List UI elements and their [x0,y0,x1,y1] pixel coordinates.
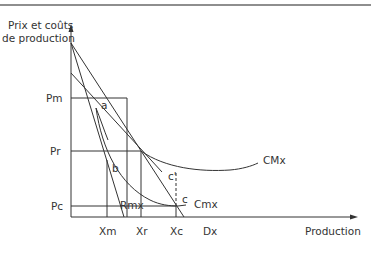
average-cost-label: CMx [263,155,286,166]
marginal-revenue-label: Rmx [120,200,144,211]
price-label-pc: Pc [51,201,63,212]
price-label-pr: Pr [50,146,60,157]
quantity-label-xc: Xc [170,226,183,237]
marginal-revenue-line [71,43,124,217]
cost-line [71,73,162,172]
quantity-label-xm: Xm [99,226,116,237]
point-b-label: b [112,163,119,174]
quantity-label-xr: Xr [136,226,148,237]
marginal-cost-label: Cmx [194,199,218,210]
y-axis-label-line1: Prix et coûts [8,20,73,31]
quantity-label-dx: Dx [203,226,217,237]
point-c-prime-label: c' [168,171,177,182]
point-c-label: c [182,194,188,205]
x-axis-label: Production [305,226,361,237]
y-axis-label-line2: de production [2,33,75,44]
x-axis-arrow-icon [350,215,358,220]
point-a-label: a [101,100,107,111]
price-label-pm: Pm [46,93,63,104]
